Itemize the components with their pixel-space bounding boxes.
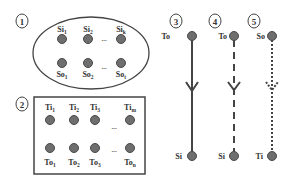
- node-label-ti3: Ti3: [90, 103, 100, 113]
- from-label: To: [161, 32, 170, 41]
- node-label-si2: Si2: [83, 25, 93, 35]
- node-label-so2: So2: [82, 70, 93, 80]
- ellipsis-bottom: ...: [101, 63, 107, 71]
- node-label-to2: To2: [68, 158, 80, 168]
- from-node: [188, 32, 197, 41]
- from-node: [230, 32, 239, 41]
- panel-4-number-badge: 4: [209, 14, 221, 28]
- node-to1: [46, 144, 55, 153]
- ellipsis-bottom: ...: [111, 146, 117, 154]
- node-sik: [117, 35, 126, 44]
- ellipsis-top: ...: [111, 123, 117, 131]
- from-label: So: [257, 32, 265, 41]
- from-label: To: [218, 32, 227, 41]
- node-ti2: [70, 116, 79, 125]
- node-label-tim: Tim: [124, 103, 136, 113]
- to-label: Si: [175, 152, 182, 161]
- arrowhead-icon: [228, 82, 240, 90]
- from-node: [268, 32, 277, 41]
- panel-2-number-badge: 2: [16, 97, 28, 111]
- node-label-ton: Ton: [124, 158, 136, 168]
- panel-3-number: 3: [174, 17, 179, 27]
- node-ton: [126, 144, 135, 153]
- node-label-si1: Si1: [57, 25, 67, 35]
- panel-1-number-badge: 1: [16, 14, 28, 28]
- panel-5-number: 5: [252, 17, 257, 27]
- node-label-to1: To1: [44, 158, 56, 168]
- node-label-ti1: Ti1: [45, 103, 55, 113]
- diagram-canvas: 1 Si1 Si2 Sik ... ... So1 So2 Sot 2 Ti1 …: [0, 0, 297, 183]
- node-so1: [58, 59, 67, 68]
- node-so2: [84, 59, 93, 68]
- panel-2-number: 2: [20, 100, 25, 110]
- panel-3: 3 To Si: [161, 14, 198, 161]
- node-ti1: [46, 116, 55, 125]
- panel-1: 1 Si1 Si2 Sik ... ... So1 So2 Sot: [16, 14, 149, 89]
- node-sot: [117, 59, 126, 68]
- node-ti3: [91, 116, 100, 125]
- to-node: [230, 152, 239, 161]
- to-node: [188, 152, 197, 161]
- node-label-to3: To3: [89, 158, 101, 168]
- panel-1-number: 1: [20, 17, 25, 27]
- panel-2: 2 Ti1 Ti2 Ti3 Tim ... ... To1 To2 To3 To…: [16, 97, 145, 174]
- panel-4: 4 To Si: [209, 14, 240, 161]
- node-label-so1: So1: [56, 70, 67, 80]
- to-node: [268, 152, 277, 161]
- to-label: Ti: [256, 152, 264, 161]
- node-label-sot: Sot: [116, 70, 126, 80]
- to-label: Si: [218, 152, 225, 161]
- node-si2: [84, 35, 93, 44]
- panel-5: 5 So Ti: [248, 14, 278, 161]
- node-tim: [126, 116, 135, 125]
- node-to3: [91, 144, 100, 153]
- panel-4-number: 4: [213, 17, 218, 27]
- node-to2: [70, 144, 79, 153]
- node-label-sik: Sik: [116, 25, 127, 35]
- node-si1: [58, 35, 67, 44]
- node-label-ti2: Ti2: [69, 103, 79, 113]
- panel-5-number-badge: 5: [248, 14, 260, 28]
- ellipsis-top: ...: [101, 35, 107, 43]
- panel-3-number-badge: 3: [170, 14, 182, 28]
